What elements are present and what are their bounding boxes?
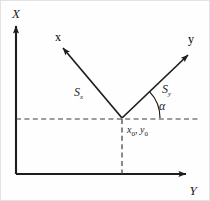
global-x-axis-label: X — [11, 6, 21, 21]
local-y-axis-label: y — [188, 32, 194, 46]
figure-border — [1, 1, 210, 201]
local-x-axis-label: x — [55, 30, 61, 44]
rotation-angle-label: α — [159, 99, 166, 113]
coordinate-diagram-figure: X Y x y Sx Sy α x0, y0 — [0, 0, 210, 201]
origin-y-subscript: 0 — [144, 130, 148, 138]
diagram-canvas: X Y x y Sx Sy α x0, y0 — [0, 0, 210, 201]
